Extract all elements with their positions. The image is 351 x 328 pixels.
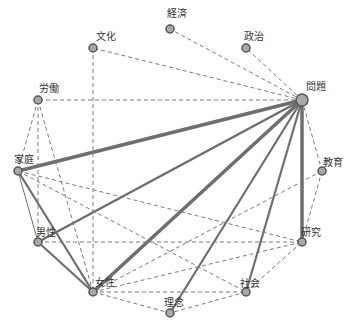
- edge-mondai-shakai: [246, 100, 302, 292]
- edge-josei-rinen: [93, 292, 170, 313]
- node-label-shakai: 社会: [240, 278, 260, 290]
- node-bunka[interactable]: [89, 44, 97, 52]
- edge-mondai-katei: [18, 100, 302, 171]
- edge-josei-kenkyuu: [93, 242, 302, 292]
- edge-mondai-kyouiku: [302, 100, 322, 171]
- node-rinen[interactable]: [166, 309, 174, 317]
- node-label-kyouiku: 教育: [323, 157, 343, 169]
- node-dansei[interactable]: [34, 238, 42, 246]
- node-label-seiji: 政治: [244, 31, 264, 43]
- edge-katei-dansei: [18, 171, 38, 242]
- node-label-mondai: 問題: [306, 81, 326, 93]
- node-label-bunka: 文化: [96, 31, 116, 43]
- node-keizai[interactable]: [166, 25, 174, 33]
- edge-roudou-josei: [38, 100, 93, 292]
- edge-mondai-bunka: [93, 48, 302, 100]
- node-label-dansei: 男性: [36, 227, 56, 239]
- node-mondai[interactable]: [296, 94, 308, 106]
- network-graph: [0, 0, 351, 328]
- node-label-katei: 家庭: [14, 154, 34, 166]
- edge-mondai-seiji: [246, 48, 302, 100]
- network-diagram: 経済文化政治問題労働家庭教育男性研究女性社会理念: [0, 0, 351, 328]
- node-kenkyuu[interactable]: [298, 238, 306, 246]
- node-roudou[interactable]: [34, 96, 42, 104]
- node-seiji[interactable]: [242, 44, 250, 52]
- node-katei[interactable]: [14, 167, 22, 175]
- node-label-roudou: 労働: [39, 83, 59, 95]
- edge-mondai-keizai: [170, 29, 302, 100]
- node-josei[interactable]: [89, 288, 97, 296]
- node-label-keizai: 経済: [167, 8, 187, 20]
- node-label-rinen: 理念: [164, 297, 184, 309]
- node-label-josei: 女性: [95, 277, 115, 289]
- edge-mondai-rinen: [170, 100, 302, 313]
- edges-layer: [18, 29, 322, 313]
- node-label-kenkyuu: 研究: [301, 227, 321, 239]
